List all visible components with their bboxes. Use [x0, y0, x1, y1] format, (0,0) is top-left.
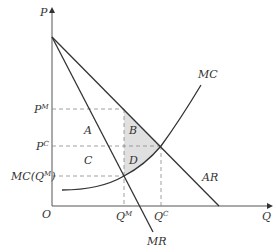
ar-label: AR [201, 171, 218, 184]
pc-label: PC [35, 140, 49, 153]
region-a-label: A [83, 124, 92, 137]
x-axis-label: Q [262, 210, 271, 223]
qm-label: QM [116, 210, 133, 223]
mc-label: MC [197, 68, 218, 81]
region-b-label: B [128, 124, 137, 137]
region-d-label: D [128, 154, 138, 167]
origin-label: O [42, 208, 51, 221]
ar-curve [52, 37, 219, 206]
qc-label: QC [154, 210, 169, 223]
mr-label: MR [146, 235, 167, 248]
y-axis-label: P [39, 6, 48, 19]
mc-qm-label: MC(QM) [10, 170, 55, 183]
monopoly-diagram: P Q O MC AR MR PM PC MC(QM) QM QC A B C … [0, 0, 276, 252]
pm-label: PM [33, 103, 49, 116]
region-c-label: C [84, 154, 93, 167]
